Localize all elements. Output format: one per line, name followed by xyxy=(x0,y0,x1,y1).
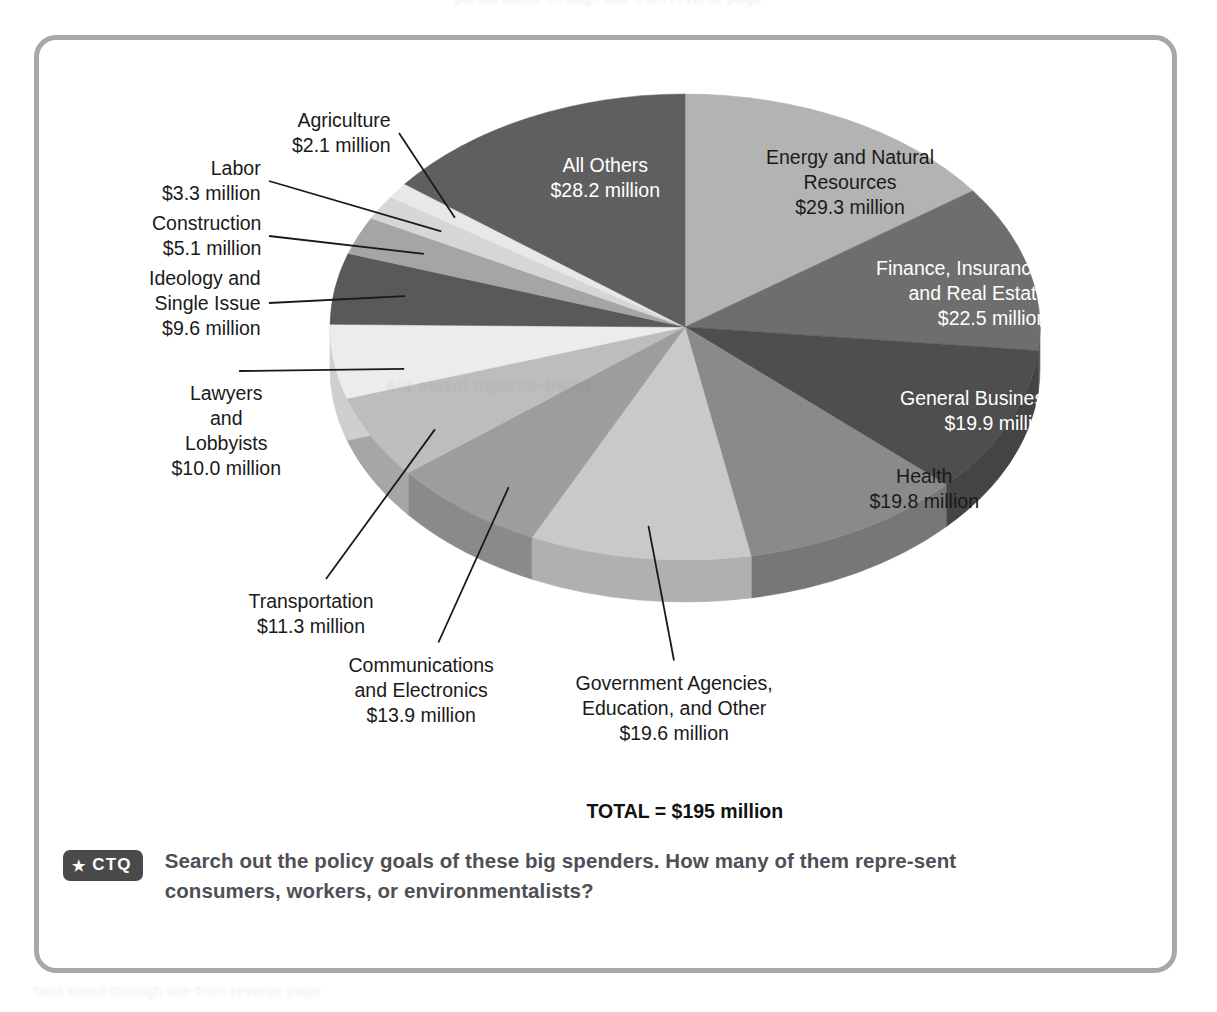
screenshot-root: partial bleed-through line from reverse … xyxy=(0,0,1217,1012)
chart-panel: bleed-through inside pie Energy and Natu… xyxy=(34,35,1177,973)
ctq-badge-label: CTQ xyxy=(92,855,131,875)
pie-label-line: General Business xyxy=(900,386,1054,411)
pie-label-line: Health xyxy=(870,464,979,489)
pie-label-line: $11.3 million xyxy=(249,614,374,639)
page-bleed-through-bottom: faint bleed-through line from reverse pa… xyxy=(0,986,1217,1012)
pie-label-line: and xyxy=(172,406,281,431)
pie-label-line: Communications xyxy=(349,653,494,678)
pie-label-communications-and-electronics: Communicationsand Electronics$13.9 milli… xyxy=(349,653,494,728)
pie-label-line: Construction xyxy=(152,211,261,236)
pie-label-line: Lawyers xyxy=(172,381,281,406)
pie-label-line: and Real Estate xyxy=(876,281,1047,306)
pie-label-line: $2.1 million xyxy=(292,133,391,158)
ctq-callout: ★ CTQ Search out the policy goals of the… xyxy=(63,846,1153,906)
pie-label-line: Education, and Other xyxy=(576,696,773,721)
pie-label-agriculture: Agriculture$2.1 million xyxy=(292,108,391,158)
pie-label-construction: Construction$5.1 million xyxy=(152,211,261,261)
pie-label-line: All Others xyxy=(551,153,660,178)
pie-label-line: $13.9 million xyxy=(349,703,494,728)
pie-label-line: $29.3 million xyxy=(766,195,934,220)
pie-label-government-agencies-education-and-other: Government Agencies,Education, and Other… xyxy=(576,671,773,746)
pie-total-label: TOTAL = $195 million xyxy=(587,800,784,823)
pie-label-health: Health$19.8 million xyxy=(870,464,979,514)
pie-label-line: Lobbyists xyxy=(172,431,281,456)
pie-label-ideology-and-single-issue: Ideology andSingle Issue$9.6 million xyxy=(149,266,261,341)
pie-label-line: $9.6 million xyxy=(149,316,261,341)
pie-label-general-business: General Business$19.9 million xyxy=(900,386,1054,436)
pie-label-line: Labor xyxy=(162,156,261,181)
pie-label-line: $3.3 million xyxy=(162,181,261,206)
pie-label-labor: Labor$3.3 million xyxy=(162,156,261,206)
pie-label-line: Agriculture xyxy=(292,108,391,133)
ctq-badge: ★ CTQ xyxy=(63,850,143,881)
pie-label-line: Resources xyxy=(766,170,934,195)
pie-label-line: Government Agencies, xyxy=(576,671,773,696)
pie-label-line: and Electronics xyxy=(349,678,494,703)
pie-label-line: $19.8 million xyxy=(870,489,979,514)
pie-label-line: $28.2 million xyxy=(551,178,660,203)
pie-label-line: $19.6 million xyxy=(576,721,773,746)
pie-label-line: $22.5 million xyxy=(876,306,1047,331)
pie-label-line: $5.1 million xyxy=(152,236,261,261)
pie-label-line: Ideology and xyxy=(149,266,261,291)
star-icon: ★ xyxy=(72,858,86,873)
pie-label-finance-insurance-and-real-estate: Finance, Insurance,and Real Estate$22.5 … xyxy=(876,256,1047,331)
pie-label-line: $10.0 million xyxy=(172,456,281,481)
pie-label-line: $19.9 million xyxy=(900,411,1054,436)
ctq-question-text: Search out the policy goals of these big… xyxy=(165,846,1015,906)
ghost-bottom-text: faint bleed-through line from reverse pa… xyxy=(34,986,321,999)
pie-label-all-others: All Others$28.2 million xyxy=(551,153,660,203)
pie-label-line: Energy and Natural xyxy=(766,145,934,170)
pie-label-line: Transportation xyxy=(249,589,374,614)
ghost-top-text: partial bleed-through line from reverse … xyxy=(454,0,763,6)
pie-label-energy-and-natural-resources: Energy and NaturalResources$29.3 million xyxy=(766,145,934,220)
pie-label-lawyers-and-lobbyists: LawyersandLobbyists$10.0 million xyxy=(172,381,281,481)
pie-label-line: Single Issue xyxy=(149,291,261,316)
pie-label-line: Finance, Insurance, xyxy=(876,256,1047,281)
pie-chart-area: bleed-through inside pie Energy and Natu… xyxy=(39,40,1182,830)
page-bleed-through-top: partial bleed-through line from reverse … xyxy=(0,0,1217,10)
pie-label-transportation: Transportation$11.3 million xyxy=(249,589,374,639)
